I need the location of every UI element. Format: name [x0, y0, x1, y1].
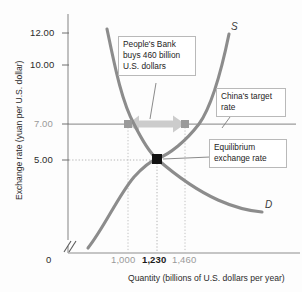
x-tick-label-1460: 1,460: [172, 254, 196, 265]
peoples-bank-callout: People's Bank buys 460 billion U.S. doll…: [118, 36, 196, 76]
x-axis-title: Quantity (billions of U.S. dollars per y…: [128, 273, 285, 283]
y-tick-label-10: 10.00: [30, 59, 54, 70]
equilibrium-point: [152, 154, 162, 164]
peoples-bank-leader-line: [150, 83, 156, 119]
figure-canvas: 12.00 10.00 7.00 5.00 Exchange rate (yua…: [0, 0, 302, 292]
y-tick-label-12: 12.00: [30, 27, 54, 38]
x-tick-label-1230: 1,230: [142, 254, 166, 265]
equilibrium-rate-leader-line: [163, 157, 210, 159]
y-axis-title: Exchange rate (yuan per U.S. dollar): [14, 61, 24, 200]
origin-label: 0: [46, 254, 51, 265]
y-tick-label-5: 5.00: [34, 154, 53, 165]
demand-curve-label: D: [265, 199, 272, 210]
china-target-rate-callout: China's target rate: [216, 88, 286, 117]
supply-curve-label: S: [231, 21, 238, 32]
equilibrium-rate-callout: Equilibrium exchange rate: [209, 139, 287, 168]
china-target-rate-leader-line: [222, 117, 230, 128]
x-tick-label-1000: 1,000: [111, 254, 135, 265]
axis-break-icon: [64, 241, 76, 252]
y-tick-label-7: 7.00: [34, 118, 53, 129]
surplus-left-point: [124, 120, 132, 128]
surplus-right-point: [181, 120, 189, 128]
